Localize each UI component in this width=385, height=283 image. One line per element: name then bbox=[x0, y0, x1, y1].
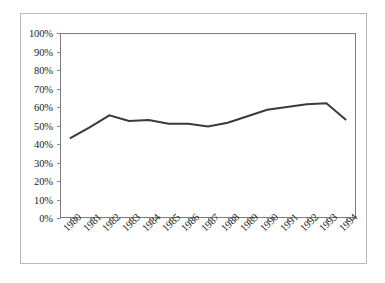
y-axis-tick-label: 10% bbox=[34, 194, 53, 205]
y-axis-tick-label: 60% bbox=[34, 102, 53, 113]
y-axis-tick-label: 40% bbox=[34, 139, 53, 150]
y-axis-tick-label: 100% bbox=[29, 28, 53, 39]
y-axis-tick-label: 80% bbox=[34, 65, 53, 76]
y-axis-tick-label: 30% bbox=[34, 157, 53, 168]
y-axis-tick-label: 50% bbox=[34, 120, 53, 131]
y-axis-tick-label: 70% bbox=[34, 83, 53, 94]
y-axis-tick-label: 90% bbox=[34, 46, 53, 57]
data-line-series-1 bbox=[70, 103, 346, 138]
plot-wrapper: 0%10%20%30%40%50%60%70%80%90%100% 198019… bbox=[21, 14, 366, 263]
chart-frame: 0%10%20%30%40%50%60%70%80%90%100% 198019… bbox=[20, 13, 367, 264]
x-axis: 1980198119821983198419851986198719881989… bbox=[60, 218, 356, 278]
y-axis: 0%10%20%30%40%50%60%70%80%90%100% bbox=[21, 33, 57, 218]
y-axis-tick-label: 20% bbox=[34, 176, 53, 187]
line-series-layer bbox=[60, 33, 356, 218]
y-axis-tick-label: 0% bbox=[39, 213, 53, 224]
